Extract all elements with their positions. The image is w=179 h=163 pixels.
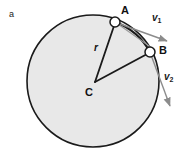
physics-diagram-rotating-disc: a A B C r v1 v2	[0, 0, 179, 163]
vector-label-v1-subscript: 1	[158, 17, 162, 24]
point-marker-b	[145, 47, 155, 57]
vector-label-v2: v2	[164, 72, 173, 82]
rotating-disc	[27, 15, 159, 147]
vector-label-v2-symbol: v	[164, 71, 170, 82]
vector-label-v1-symbol: v	[152, 12, 158, 23]
vector-label-v1: v1	[152, 13, 161, 23]
point-marker-a	[110, 17, 120, 27]
panel-letter: a	[9, 10, 14, 19]
point-label-a: A	[121, 5, 129, 16]
radius-label: r	[94, 43, 98, 53]
vector-label-v2-subscript: 2	[170, 76, 174, 83]
point-label-b: B	[159, 45, 167, 56]
point-label-c: C	[85, 87, 93, 98]
diagram-canvas	[0, 0, 179, 163]
